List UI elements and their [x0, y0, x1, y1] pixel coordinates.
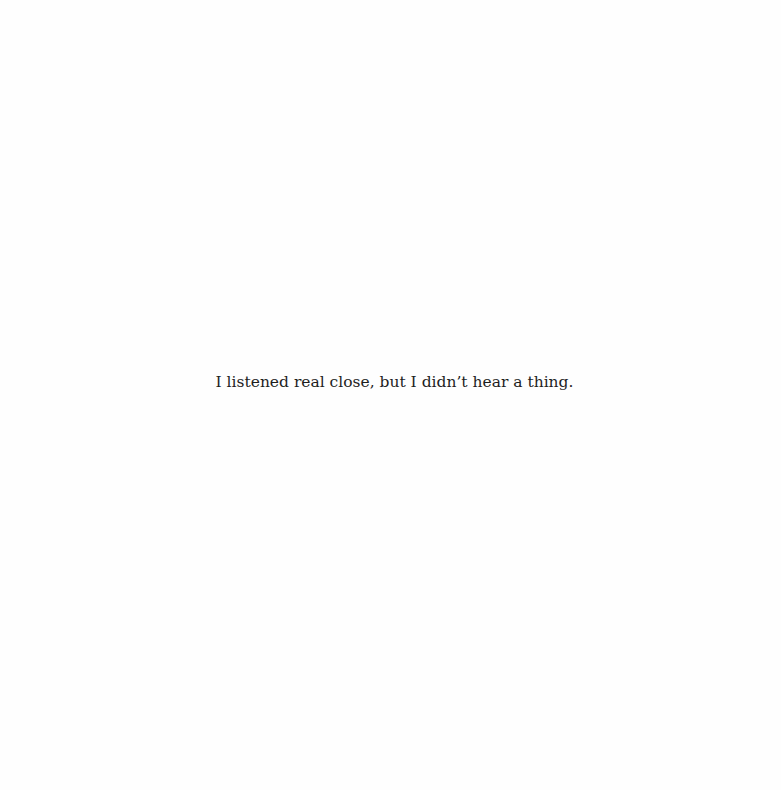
- body-text-line: I listened real close, but I didn’t hear…: [0, 373, 781, 391]
- book-page: I listened real close, but I didn’t hear…: [0, 0, 781, 790]
